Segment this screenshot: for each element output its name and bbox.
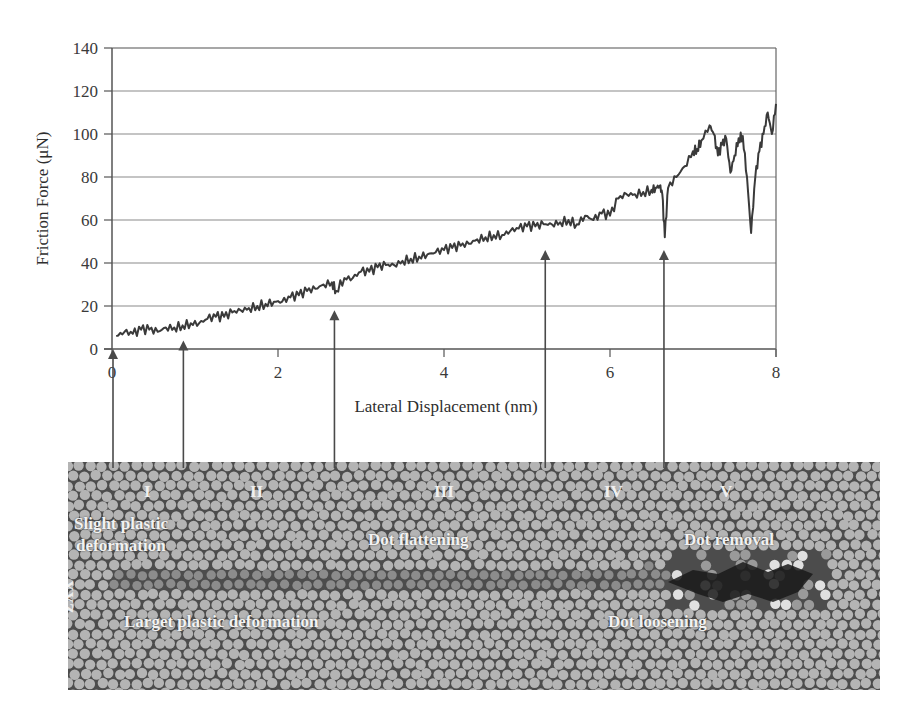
nanodot [564,540,574,550]
nanodot [696,649,706,659]
nanodot [195,530,205,540]
nanodot [349,580,358,589]
nanodot [833,509,843,519]
nanodot [683,491,693,501]
nanodot [804,520,814,530]
nanodot [741,669,751,679]
nanodot [501,470,511,480]
nanodot [826,658,836,668]
nanodot [759,520,769,530]
nanodot [330,670,340,680]
nanodot [776,610,786,620]
nanodot [810,629,820,639]
nanodot [490,610,500,620]
nanodot [217,649,227,659]
nanodot [210,501,220,511]
nanodot [508,659,518,669]
nanodot [570,549,580,559]
nanodot [684,511,694,521]
nanodot [547,629,557,639]
nanodot [376,589,386,599]
nanodot [326,559,336,569]
nanodot [472,659,482,669]
nanodot [455,511,465,521]
nanodot [723,639,733,649]
nanodot [155,599,165,609]
nanodot [576,561,586,571]
nanodot [91,590,101,600]
nanodot [394,501,404,511]
nanodot [291,500,301,510]
nanodot [326,600,336,610]
nanodot [291,560,301,570]
nanodot [827,679,837,689]
nanodot [393,678,403,688]
nanodot [433,610,443,620]
nanodot [512,669,522,679]
nanodot [268,560,278,570]
nanodot [383,580,392,589]
nanodot [621,520,631,530]
nanodot [763,491,773,501]
nanodot [217,511,227,521]
nanodot [655,639,665,649]
nanodot [171,589,181,599]
nanodot [188,540,198,550]
nanodot [717,510,727,520]
nanodot [507,521,517,531]
nanodot [588,599,598,609]
nanodot [154,678,164,688]
nanodot [781,520,791,530]
nanodot [189,679,199,689]
nanodot [130,501,140,511]
nanodot [193,590,203,600]
nanodot [753,649,763,659]
nanodot [342,608,352,618]
nanodot [97,480,107,490]
nanodot [799,609,809,619]
nanodot [387,490,397,500]
nanodot [845,570,855,580]
nanodot [833,629,843,639]
nanodot [336,561,346,571]
nanodot [274,590,284,600]
nanodot [377,629,387,639]
nanodot [741,470,751,480]
nanodot [308,649,318,659]
nanodot [80,490,90,500]
nanodot [461,619,471,629]
nanodot [102,609,112,619]
stage-label-1: I [144,482,151,502]
nanodot [166,500,176,510]
nanodot [302,660,312,670]
nanodot [450,520,460,530]
nanodot [717,609,727,619]
nanodot [246,639,256,649]
nanodot [314,600,324,610]
nanodot [474,580,483,589]
nanodot [91,490,101,500]
nanodot [320,650,330,660]
nanodot [268,659,278,669]
nanodot [421,650,431,660]
nanodot [712,660,722,670]
nanodot [331,571,340,580]
nanodot [861,618,871,628]
nanodot [235,660,245,670]
nanodot [120,658,130,668]
nanodot [229,669,239,679]
nanodot [508,580,517,589]
nanodot [638,589,648,599]
nanodot [166,480,176,490]
nanodot [388,610,398,620]
nanodot [125,648,135,658]
nanodot [85,620,95,630]
nanodot [201,580,210,589]
nanodot [479,570,488,579]
nanodot [80,590,90,600]
nanodot [461,599,471,609]
nanodot [199,560,209,570]
nanodot [80,569,90,579]
nanodot [611,639,621,649]
nanodot [479,531,489,541]
